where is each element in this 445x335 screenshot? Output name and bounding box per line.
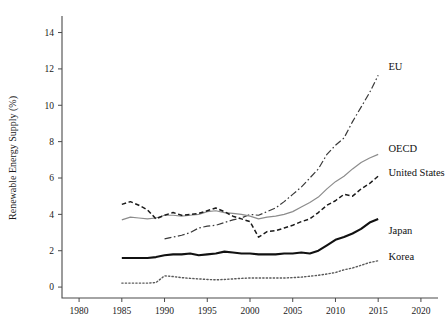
y-tick-label: 0 bbox=[49, 282, 54, 292]
renewable-energy-line-chart: 02468101214 1980198519901995200020052010… bbox=[0, 0, 445, 335]
y-tick-label: 14 bbox=[45, 28, 55, 38]
y-tick-label: 10 bbox=[45, 101, 55, 111]
series-label-united-states: United States bbox=[388, 167, 444, 178]
x-tick-label: 1990 bbox=[155, 306, 174, 316]
y-tick-label: 4 bbox=[49, 210, 54, 220]
x-tick-label: 2000 bbox=[241, 306, 260, 316]
x-tick-label: 2010 bbox=[326, 306, 345, 316]
x-tick-label: 2005 bbox=[283, 306, 302, 316]
series-label-japan: Japan bbox=[388, 225, 413, 236]
y-tick-label: 12 bbox=[45, 64, 55, 74]
y-axis-title: Renewable Energy Supply (%) bbox=[7, 96, 19, 220]
series-label-korea: Korea bbox=[388, 251, 414, 262]
x-tick-label: 2015 bbox=[369, 306, 388, 316]
y-tick-label: 6 bbox=[49, 173, 54, 183]
x-tick-label: 1995 bbox=[198, 306, 217, 316]
series-label-eu: EU bbox=[388, 61, 402, 72]
x-tick-label: 2020 bbox=[411, 306, 430, 316]
chart-background bbox=[0, 0, 445, 335]
series-label-oecd: OECD bbox=[388, 143, 417, 154]
y-tick-label: 8 bbox=[49, 137, 54, 147]
x-tick-label: 1980 bbox=[70, 306, 89, 316]
y-tick-label: 2 bbox=[49, 246, 54, 256]
chart-figure: 02468101214 1980198519901995200020052010… bbox=[0, 0, 445, 335]
x-tick-label: 1985 bbox=[112, 306, 131, 316]
